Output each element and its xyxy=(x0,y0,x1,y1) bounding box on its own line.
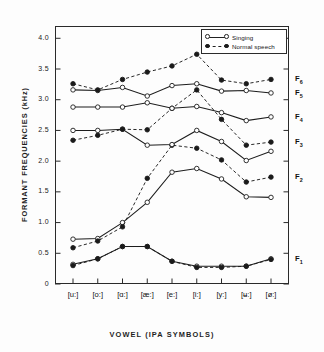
data-point xyxy=(269,195,274,200)
data-point xyxy=(195,88,200,93)
y-axis-tick-label: 0 xyxy=(23,280,49,287)
data-point xyxy=(71,246,76,251)
data-point xyxy=(120,244,125,249)
y-axis-tick-label: 0.5 xyxy=(23,249,49,256)
x-axis-tick-label: [ø:] xyxy=(251,290,291,299)
legend-label-singing: Singing xyxy=(232,34,253,41)
data-point xyxy=(219,139,224,144)
data-point xyxy=(170,259,175,264)
data-point xyxy=(145,70,150,75)
series-line-F1-speech xyxy=(73,247,271,268)
data-point xyxy=(195,104,200,109)
data-point xyxy=(71,263,76,268)
data-point xyxy=(71,128,76,133)
data-point xyxy=(269,140,274,145)
data-point xyxy=(244,158,249,163)
data-point xyxy=(219,158,224,163)
y-axis-tick-label: 3.5 xyxy=(23,65,49,72)
data-point xyxy=(269,77,274,82)
y-axis-tick-label: 2.5 xyxy=(23,126,49,133)
formant-label-f4: F4 xyxy=(295,112,303,123)
data-point xyxy=(96,88,101,93)
formant-frequency-chart: FORMANT FREQUENCIES (kHz) VOWEL (IPA SYM… xyxy=(0,0,324,352)
data-point xyxy=(195,166,200,171)
data-point xyxy=(96,133,101,138)
formant-label-f5: F5 xyxy=(295,88,303,99)
data-point xyxy=(145,244,150,249)
data-point xyxy=(145,200,150,205)
data-point xyxy=(269,115,274,120)
data-point xyxy=(244,143,249,148)
data-point xyxy=(195,265,200,270)
data-point xyxy=(96,128,101,133)
data-point xyxy=(195,128,200,133)
data-point xyxy=(170,83,175,88)
data-point xyxy=(96,239,101,244)
y-axis-tick-label: 3.0 xyxy=(23,95,49,102)
formant-label-f6: F6 xyxy=(295,74,303,85)
data-point xyxy=(269,175,274,180)
filled-circle-dashed-line-icon xyxy=(205,42,229,51)
data-point xyxy=(145,101,150,106)
data-point xyxy=(120,85,125,90)
open-circle-line-icon xyxy=(205,33,229,42)
data-point xyxy=(145,143,150,148)
data-point xyxy=(71,105,76,110)
data-point xyxy=(120,225,125,230)
data-point xyxy=(219,177,224,182)
formant-label-f1: F1 xyxy=(295,254,303,265)
y-axis-tick-label: 1.5 xyxy=(23,187,49,194)
y-axis-tick-label: 1.0 xyxy=(23,218,49,225)
data-point xyxy=(195,81,200,86)
data-point xyxy=(244,88,249,93)
series-line-F3-speech xyxy=(73,90,271,145)
data-point xyxy=(269,91,274,96)
data-point xyxy=(219,117,224,122)
data-point xyxy=(96,105,101,110)
legend-label-normal-speech: Normal speech xyxy=(232,43,275,50)
data-point xyxy=(269,257,274,262)
formant-label-f2: F2 xyxy=(295,172,303,183)
data-point xyxy=(71,138,76,143)
legend-item-singing: Singing xyxy=(205,33,283,43)
series-line-F2-singing xyxy=(73,169,271,240)
data-point xyxy=(145,128,150,133)
data-point xyxy=(219,265,224,270)
data-point xyxy=(244,264,249,269)
data-point xyxy=(244,81,249,86)
data-point xyxy=(244,180,249,185)
data-point xyxy=(170,106,175,111)
formant-label-f3: F3 xyxy=(295,137,303,148)
data-point xyxy=(170,170,175,175)
legend: Singing Normal speech xyxy=(201,29,287,54)
data-point xyxy=(195,52,200,57)
data-point xyxy=(120,77,125,82)
data-point xyxy=(219,78,224,83)
legend-item-normal-speech: Normal speech xyxy=(205,42,283,52)
data-point xyxy=(145,176,150,181)
data-point xyxy=(219,110,224,115)
data-point xyxy=(269,149,274,154)
y-axis-tick-label: 2.0 xyxy=(23,157,49,164)
data-point xyxy=(244,195,249,200)
data-point xyxy=(170,142,175,147)
data-point xyxy=(71,88,76,93)
series-line-F4-singing xyxy=(73,103,271,121)
data-point xyxy=(120,127,125,132)
data-point xyxy=(96,257,101,262)
data-point xyxy=(219,89,224,94)
data-point xyxy=(195,146,200,151)
data-point xyxy=(71,237,76,242)
series-line-F2-speech xyxy=(73,145,271,248)
data-point xyxy=(120,105,125,110)
y-axis-tick-label: 4.0 xyxy=(23,34,49,41)
data-point xyxy=(71,81,76,86)
data-point xyxy=(145,94,150,99)
data-point xyxy=(170,64,175,69)
data-point xyxy=(244,118,249,123)
